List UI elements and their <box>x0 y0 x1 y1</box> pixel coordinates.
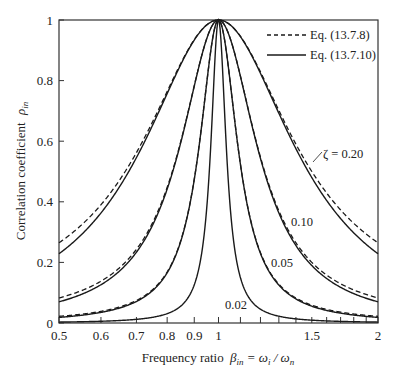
y-tick-label: 1 <box>47 13 54 28</box>
curves <box>59 20 378 322</box>
x-tick-label: 0.9 <box>186 328 202 343</box>
curve-label-zeta-020: ζ = 0.20 <box>323 147 363 161</box>
y-tick-label: 0.4 <box>37 194 54 209</box>
x-axis-title: Frequency ratio βin = ωi / ωn <box>142 350 295 367</box>
curve-dashed-zeta-0.05 <box>59 20 378 316</box>
x-tick-label: 0.7 <box>128 328 145 343</box>
legend-label-eq-13-7-10: Eq. (13.7.10) <box>310 48 376 62</box>
legend-label-eq-13-7-8: Eq. (13.7.8) <box>310 28 370 42</box>
y-tick-label: 0.6 <box>37 134 54 149</box>
x-tick-label: 0.6 <box>93 328 110 343</box>
curve-solid-zeta-0.05 <box>59 20 378 317</box>
curve-label-zeta-010: 0.10 <box>291 215 313 229</box>
y-axis-title: Correlation coefficient ρin <box>13 101 30 240</box>
x-tick-label: 2 <box>375 328 382 343</box>
x-tick-label: 0.8 <box>159 328 175 343</box>
x-tick-label: 1 <box>215 328 222 343</box>
y-axis-ticks: 00.20.40.60.81 <box>37 13 64 331</box>
x-tick-label: 1.5 <box>304 328 320 343</box>
y-tick-label: 0.8 <box>37 73 53 88</box>
curve-label-zeta-005: 0.05 <box>271 256 293 270</box>
y-tick-label: 0 <box>47 316 54 331</box>
correlation-chart: 0.50.60.70.80.911.52 00.20.40.60.81 Eq. … <box>0 0 398 382</box>
x-tick-label: 0.5 <box>51 328 67 343</box>
legend: Eq. (13.7.8) Eq. (13.7.10) <box>267 28 376 62</box>
y-tick-label: 0.2 <box>37 255 53 270</box>
zeta-020-leader-line <box>313 152 322 162</box>
curve-label-zeta-002: 0.02 <box>225 298 247 312</box>
